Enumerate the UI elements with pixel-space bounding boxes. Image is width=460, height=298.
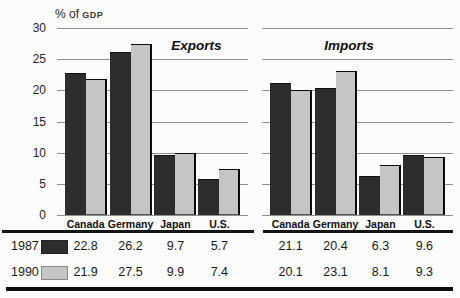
bar-group-japan: [359, 165, 401, 215]
y-tick-30: 30: [16, 22, 46, 35]
category-label-us-exports: U.S.: [209, 218, 229, 230]
bar-1987-germany-exports: [110, 52, 131, 215]
legend-swatch-1990: [41, 266, 68, 280]
bar-1987-canada-imports: [270, 83, 291, 215]
unit-caps: GDP: [82, 10, 103, 20]
y-tick-25: 25: [16, 53, 46, 66]
panel-title-exports: Exports: [171, 38, 221, 53]
gridline-0: [57, 215, 248, 216]
bar-1990-us-imports: [424, 157, 445, 215]
bar-1987-germany-imports: [315, 88, 336, 215]
table-cell-1987-c4: 21.1: [278, 239, 302, 253]
bar-group-germany: [110, 44, 152, 215]
bar-1990-japan-exports: [175, 153, 196, 215]
y-tick-10: 10: [16, 147, 46, 160]
table-cell-1987-c7: 9.6: [416, 239, 433, 253]
bar-1990-germany-imports: [336, 71, 357, 215]
gridline-30: [57, 28, 248, 29]
axis-rule-right: [263, 230, 453, 233]
bar-group-us: [403, 155, 445, 215]
gridline-25: [262, 59, 453, 60]
bar-1990-japan-imports: [380, 165, 401, 215]
figure: % of GDP 302520151050 ExportsImports Can…: [0, 0, 460, 298]
y-axis-unit-label: % of GDP: [55, 7, 103, 21]
category-label-canada-imports: Canada: [272, 218, 310, 230]
table-cell-1990-c3: 7.4: [211, 265, 228, 279]
bar-1987-us-imports: [403, 155, 424, 215]
y-tick-20: 20: [16, 84, 46, 97]
table-cell-1990-c2: 9.9: [167, 265, 184, 279]
category-label-japan-imports: Japan: [365, 218, 395, 230]
table-cell-1987-c5: 20.4: [323, 239, 347, 253]
gridline-25: [57, 59, 248, 60]
panel-title-imports: Imports: [324, 38, 374, 53]
bar-1987-canada-exports: [65, 73, 86, 215]
bar-1990-canada-imports: [291, 90, 312, 215]
row-year-1990: 1990: [11, 265, 39, 279]
table-cell-1990-c4: 20.1: [278, 265, 302, 279]
bar-1987-us-exports: [198, 179, 219, 215]
table-cell-1990-c0: 21.9: [73, 265, 97, 279]
bar-1990-us-exports: [219, 169, 240, 215]
category-label-japan-exports: Japan: [160, 218, 190, 230]
bar-group-us: [198, 169, 240, 215]
category-label-canada-exports: Canada: [67, 218, 105, 230]
y-tick-5: 5: [16, 178, 46, 191]
gridline-0: [262, 215, 453, 216]
bottom-rule: [6, 287, 453, 291]
panel-exports: Exports: [57, 28, 248, 215]
unit-prefix: % of: [55, 7, 79, 21]
row-year-1987: 1987: [11, 239, 39, 253]
table-cell-1987-c3: 5.7: [211, 239, 228, 253]
bar-1987-japan-exports: [154, 155, 175, 215]
category-label-germany-exports: Germany: [108, 218, 154, 230]
table-cell-1990-c1: 27.5: [118, 265, 142, 279]
bar-group-germany: [315, 71, 357, 215]
category-label-us-imports: U.S.: [414, 218, 434, 230]
legend-swatch-1987: [41, 240, 68, 254]
bar-group-canada: [65, 73, 107, 215]
bar-1987-japan-imports: [359, 176, 380, 215]
y-tick-0: 0: [16, 209, 46, 222]
table-cell-1987-c0: 22.8: [73, 239, 97, 253]
y-tick-15: 15: [16, 116, 46, 129]
axis-rule-left: [2, 230, 254, 233]
table-cell-1987-c2: 9.7: [167, 239, 184, 253]
panel-imports: Imports: [262, 28, 453, 215]
table-cell-1990-c7: 9.3: [416, 265, 433, 279]
table-cell-1990-c5: 23.1: [323, 265, 347, 279]
table-cell-1990-c6: 8.1: [372, 265, 389, 279]
table-cell-1987-c6: 6.3: [372, 239, 389, 253]
category-label-germany-imports: Germany: [313, 218, 359, 230]
bar-group-japan: [154, 153, 196, 215]
bar-1990-germany-exports: [131, 44, 152, 215]
bar-1990-canada-exports: [86, 79, 107, 216]
bar-group-canada: [270, 83, 312, 215]
table-cell-1987-c1: 26.2: [118, 239, 142, 253]
gridline-30: [262, 28, 453, 29]
